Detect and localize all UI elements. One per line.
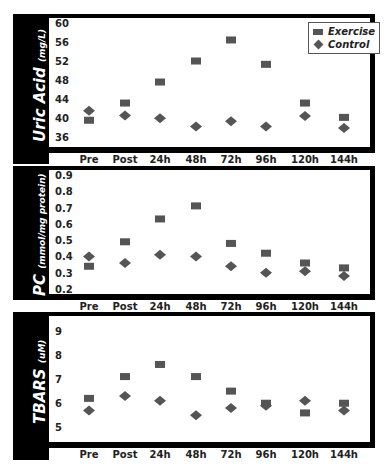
x-tick-label: 96h xyxy=(255,449,276,460)
pc-plot-area: 0.90.80.70.60.50.40.30.2 xyxy=(49,170,370,294)
x-tick-label: 24h xyxy=(149,449,170,460)
tbars-plot-area: 98765 xyxy=(49,316,370,442)
x-tick-label: 48h xyxy=(185,154,206,165)
exercise-square-marker xyxy=(120,238,130,245)
exercise-square-marker xyxy=(339,114,349,121)
x-tick-label: 48h xyxy=(185,449,206,460)
control-diamond-marker xyxy=(338,406,350,416)
x-tick-label: Post xyxy=(113,301,138,312)
control-diamond-marker xyxy=(83,106,95,116)
exercise-square-marker xyxy=(84,117,94,124)
x-tick-label: 144h xyxy=(330,154,358,165)
x-tick-label: 24h xyxy=(149,154,170,165)
exercise-square-marker xyxy=(226,388,236,395)
pc-panel: PC (mmol/mg protein) 0.90.80.70.60.50.40… xyxy=(13,166,375,300)
pc-plot-frame: 0.90.80.70.60.50.40.30.2 xyxy=(49,166,375,300)
exercise-square-marker xyxy=(261,250,271,257)
control-diamond-marker xyxy=(154,250,166,260)
x-tick-label: 72h xyxy=(220,449,241,460)
uric-acid-plot-frame: Exercise Control 60565248444036 xyxy=(49,14,375,153)
exercise-square-marker xyxy=(191,58,201,65)
control-diamond-marker xyxy=(225,261,237,271)
tbars-ylabel: TBARS (uM) xyxy=(31,340,49,424)
tbars-x-axis: PrePost24h48h72h96h120h144h xyxy=(49,448,375,462)
exercise-square-marker xyxy=(155,361,165,368)
control-diamond-marker xyxy=(338,271,350,281)
x-tick-label: Pre xyxy=(79,449,98,460)
control-diamond-marker xyxy=(299,111,311,121)
x-tick-label: 96h xyxy=(255,154,276,165)
control-diamond-marker xyxy=(190,410,202,420)
uric-acid-x-axis: PrePost24h48h72h96h120h144h xyxy=(49,153,375,167)
exercise-square-marker xyxy=(84,395,94,402)
data-markers xyxy=(49,18,369,147)
control-diamond-marker xyxy=(83,406,95,416)
x-tick-label: 96h xyxy=(255,301,276,312)
x-tick-label: 120h xyxy=(291,154,319,165)
control-diamond-marker xyxy=(299,266,311,276)
tbars-plot-frame: 98765 xyxy=(49,312,375,448)
x-tick-label: 120h xyxy=(291,449,319,460)
uric-acid-panel: Uric Acid (mg/L) Exercise Control 605652… xyxy=(13,14,375,164)
x-tick-label: 144h xyxy=(330,449,358,460)
data-markers xyxy=(49,316,369,442)
control-diamond-marker xyxy=(260,268,272,278)
exercise-square-marker xyxy=(300,100,310,107)
x-tick-label: Post xyxy=(113,154,138,165)
exercise-square-marker xyxy=(84,263,94,270)
control-diamond-marker xyxy=(83,251,95,261)
exercise-square-marker xyxy=(155,79,165,86)
tbars-panel: TBARS (uM) 98765 PrePost24h48h72h96h120h… xyxy=(13,312,375,460)
exercise-square-marker xyxy=(300,409,310,416)
control-diamond-marker xyxy=(260,121,272,131)
data-markers xyxy=(49,170,369,294)
x-tick-label: 72h xyxy=(220,154,241,165)
control-diamond-marker xyxy=(154,113,166,123)
control-diamond-marker xyxy=(225,403,237,413)
uric-acid-plot-area: Exercise Control 60565248444036 xyxy=(49,18,370,147)
x-tick-label: 48h xyxy=(185,301,206,312)
exercise-square-marker xyxy=(191,373,201,380)
exercise-square-marker xyxy=(226,36,236,43)
control-diamond-marker xyxy=(299,396,311,406)
exercise-square-marker xyxy=(155,215,165,222)
x-tick-label: Post xyxy=(113,449,138,460)
x-tick-label: Pre xyxy=(79,154,98,165)
control-diamond-marker xyxy=(119,110,131,120)
exercise-square-marker xyxy=(120,100,130,107)
x-tick-label: 72h xyxy=(220,301,241,312)
control-diamond-marker xyxy=(190,251,202,261)
x-tick-label: 144h xyxy=(330,301,358,312)
x-tick-label: 24h xyxy=(149,301,170,312)
x-tick-label: 120h xyxy=(291,301,319,312)
control-diamond-marker xyxy=(154,396,166,406)
control-diamond-marker xyxy=(225,116,237,126)
exercise-square-marker xyxy=(300,260,310,267)
control-diamond-marker xyxy=(338,123,350,133)
exercise-square-marker xyxy=(120,373,130,380)
pc-ylabel: PC (mmol/mg protein) xyxy=(31,173,49,296)
exercise-square-marker xyxy=(339,264,349,271)
control-diamond-marker xyxy=(119,391,131,401)
exercise-square-marker xyxy=(191,202,201,209)
control-diamond-marker xyxy=(190,121,202,131)
x-tick-label: Pre xyxy=(79,301,98,312)
exercise-square-marker xyxy=(226,240,236,247)
exercise-square-marker xyxy=(261,61,271,68)
control-diamond-marker xyxy=(119,258,131,268)
uric-acid-ylabel: Uric Acid (mg/L) xyxy=(31,29,49,142)
